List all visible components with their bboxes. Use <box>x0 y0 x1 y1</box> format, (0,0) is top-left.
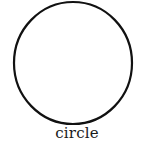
circle-figure: circle <box>0 0 144 152</box>
figure-caption: circle <box>0 124 144 142</box>
